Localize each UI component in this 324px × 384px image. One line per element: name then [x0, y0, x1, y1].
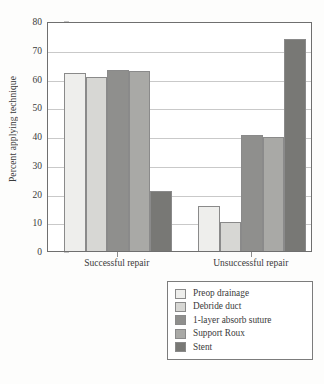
bar [241, 135, 263, 251]
y-axis-tick-labels: 01020304050607080 [20, 22, 42, 252]
bar [129, 71, 151, 251]
y-axis-tick-label: 70 [33, 46, 43, 56]
legend-swatch-icon [175, 289, 186, 299]
legend-item-label: Support Roux [193, 329, 245, 338]
chart-legend: Preop drainageDebride duct1-layer absorb… [167, 281, 313, 360]
y-axis-tick-label: 80 [33, 17, 43, 27]
bar-chart-figure: Percent applying technique 0102030405060… [0, 0, 324, 384]
legend-swatch-icon [175, 329, 186, 339]
plot-area [47, 22, 312, 252]
legend-item-label: Stent [193, 343, 212, 352]
bar [64, 73, 86, 251]
legend-swatch-icon [175, 315, 186, 325]
legend-item: Stent [175, 341, 306, 354]
x-axis-tick-mark [251, 252, 252, 257]
bar [198, 206, 220, 251]
x-axis-category-label: Unsuccessful repair [213, 258, 288, 268]
y-axis-title-text: Percent applying technique [8, 76, 18, 182]
x-axis-category-label: Successful repair [84, 258, 149, 268]
legend-item: Preop drainage [175, 287, 306, 300]
y-axis-tick-label: 50 [33, 103, 43, 113]
bar-series-container [48, 23, 311, 251]
y-axis-tick-label: 20 [33, 190, 43, 200]
y-axis-tick-label: 0 [37, 247, 42, 257]
legend-item-label: Debride duct [193, 302, 241, 311]
legend-item: Debride duct [175, 300, 306, 313]
y-axis-tick-label: 60 [33, 75, 43, 85]
legend-item-label: 1-layer absorb suture [193, 316, 271, 325]
bar [107, 70, 129, 251]
bar [150, 191, 172, 251]
y-axis-tick-label: 10 [33, 218, 43, 228]
bar [220, 222, 242, 251]
y-axis-title: Percent applying technique [6, 0, 20, 258]
bar [284, 39, 306, 251]
y-axis-tick-label: 40 [33, 132, 43, 142]
bar [86, 77, 108, 252]
legend-item-label: Preop drainage [193, 289, 249, 298]
x-axis-tick-mark [117, 252, 118, 257]
y-axis-tick-label: 30 [33, 161, 43, 171]
legend-item: 1-layer absorb suture [175, 314, 306, 327]
bar [263, 137, 285, 251]
legend-item: Support Roux [175, 327, 306, 340]
legend-swatch-icon [175, 342, 186, 352]
legend-swatch-icon [175, 302, 186, 312]
